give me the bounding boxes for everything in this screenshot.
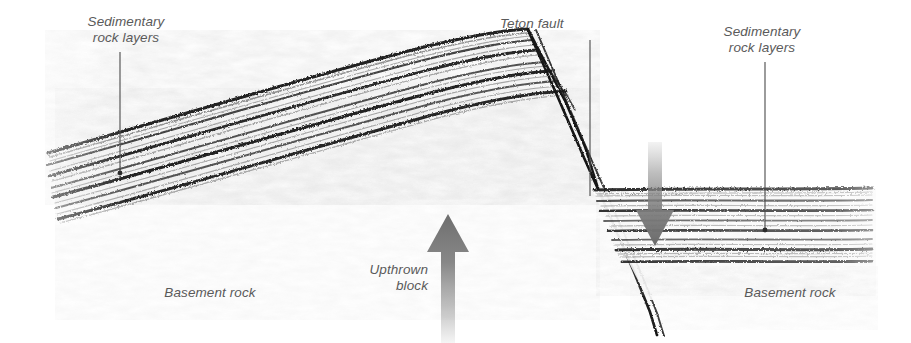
label-basement-rock-left: Basement rock (120, 285, 300, 301)
downthrown-block-group (592, 186, 878, 330)
label-sedimentary-rock-layers-right: Sedimentary rock layers (672, 24, 852, 56)
label-upthrown-block: Upthrown block (300, 262, 428, 294)
label-basement-rock-right: Basement rock (700, 285, 880, 301)
label-sedimentary-rock-layers-left: Sedimentary rock layers (36, 14, 216, 46)
label-teton-fault: Teton fault (500, 16, 680, 32)
diagram-canvas: Sedimentary rock layers Teton fault Sedi… (0, 0, 911, 343)
